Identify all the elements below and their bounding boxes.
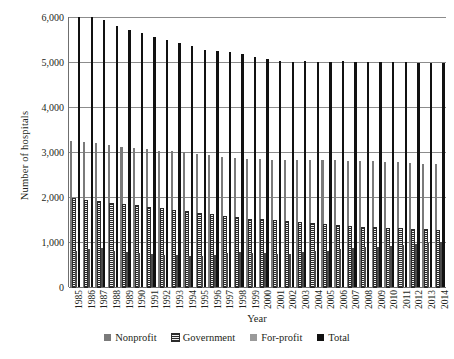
bar-total-1994 [191,46,193,287]
bar-total-1998 [241,54,243,287]
bar-group-1985 [69,17,82,287]
bar-group-2011 [396,17,409,287]
bar-total-1990 [141,33,143,287]
x-axis-title: Year [68,313,446,324]
legend-label: Nonprofit [115,332,156,343]
bar-total-2007 [354,62,356,287]
bar-group-2007 [345,17,358,287]
bar-group-1992 [157,17,170,287]
gridline-0 [69,287,446,288]
legend-item-total[interactable]: Total [317,332,349,343]
bar-group-2008 [358,17,371,287]
bar-total-2003 [304,61,306,287]
y-tick-label: 4,000 [42,102,65,113]
bar-total-1985 [78,17,80,287]
bar-total-1989 [128,30,130,287]
y-tick-label: 2,000 [42,192,65,203]
bar-group-1987 [94,17,107,287]
bar-total-1995 [204,50,206,287]
y-axis-title: Number of hospitals [19,56,30,256]
bar-group-2012 [408,17,421,287]
bar-total-1991 [153,37,155,287]
bar-group-2013 [421,17,434,287]
bar-group-1991 [144,17,157,287]
chart-legend: NonprofitGovernmentFor-profitTotal [0,332,454,343]
legend-label: Total [328,332,349,343]
bar-total-1999 [254,57,256,287]
bar-total-2001 [279,61,281,287]
bar-group-2005 [320,17,333,287]
bar-total-2012 [417,63,419,287]
hospital-counts-bar-chart: Number of hospitals 01,0002,0003,0004,00… [0,0,454,359]
bar-group-2002 [283,17,296,287]
bar-group-2000 [257,17,270,287]
bar-total-1987 [103,20,105,287]
bar-total-1992 [166,40,168,287]
bar-group-1986 [82,17,95,287]
bar-group-2004 [308,17,321,287]
bar-group-2001 [270,17,283,287]
bar-group-1999 [245,17,258,287]
bar-total-2011 [405,62,407,287]
y-axis-tick-labels: 01,0002,0003,0004,0005,0006,000 [30,0,64,359]
bar-total-2004 [317,62,319,287]
plot-area [68,17,446,287]
legend-swatch-icon [104,334,111,341]
bar-total-2010 [392,62,394,287]
legend-swatch-icon [317,334,324,341]
bar-group-1988 [107,17,120,287]
y-tick-label: 5,000 [42,57,65,68]
bar-group-1994 [182,17,195,287]
bar-total-1993 [178,43,180,287]
legend-swatch-icon [250,334,257,341]
y-tick-label: 3,000 [42,147,65,158]
bar-total-1996 [216,51,218,287]
bar-total-2002 [292,62,294,287]
bar-group-1996 [207,17,220,287]
legend-label: For-profit [261,332,302,343]
bar-group-2010 [383,17,396,287]
bar-total-1986 [91,17,93,287]
bar-group-1990 [132,17,145,287]
bar-total-2006 [342,61,344,287]
bar-total-1997 [229,52,231,287]
bar-total-2008 [367,62,369,287]
x-tick-label: 2014 [440,290,450,309]
bar-total-2013 [430,63,432,287]
bar-total-2005 [329,62,331,287]
bar-groups [69,17,446,287]
legend-swatch-icon [172,334,179,341]
legend-label: Government [183,332,236,343]
bar-group-2009 [371,17,384,287]
bar-group-1995 [195,17,208,287]
y-tick-label: 1,000 [42,237,65,248]
bar-group-2014 [433,17,446,287]
bar-group-1993 [170,17,183,287]
bar-group-2003 [295,17,308,287]
bar-group-1998 [232,17,245,287]
legend-item-forprofit[interactable]: For-profit [250,332,302,343]
y-tick-label: 0 [59,282,64,293]
bar-total-1988 [116,26,118,287]
bar-total-2000 [266,59,268,287]
bar-total-2014 [442,63,444,287]
legend-item-government[interactable]: Government [172,332,236,343]
bar-group-1989 [119,17,132,287]
bar-group-2006 [333,17,346,287]
legend-item-nonprofit[interactable]: Nonprofit [104,332,156,343]
y-tick-label: 6,000 [42,12,65,23]
bar-group-1997 [220,17,233,287]
bar-total-2009 [379,62,381,287]
